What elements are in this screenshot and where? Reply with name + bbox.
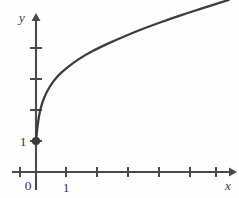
y-tick-label-one: 1	[20, 134, 27, 149]
y-axis-label: y	[17, 10, 25, 25]
origin-label: 0	[25, 178, 32, 193]
function-graph-figure: y x 0 1 1	[0, 0, 239, 198]
y-axis	[30, 13, 42, 190]
x-tick-label-one: 1	[63, 180, 70, 195]
x-axis	[12, 167, 237, 180]
x-axis-ticks	[20, 167, 216, 180]
graph-canvas: y x 0 1 1	[0, 0, 239, 198]
x-axis-label: x	[224, 178, 231, 193]
function-curve	[36, 0, 229, 141]
endpoint-dot	[32, 137, 40, 145]
x-axis-arrowhead	[229, 168, 237, 177]
y-axis-arrowhead	[32, 13, 41, 21]
